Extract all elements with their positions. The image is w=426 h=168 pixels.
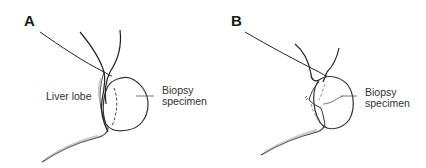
biopsy-label-a-line2: specimen [162,96,207,106]
panel-b: B Biopsy specimen [213,0,426,168]
biopsy-label-b-line1: Biopsy [365,87,397,97]
panel-a: A Liver lobe Biopsy specimen [0,0,213,168]
liver-lobe-label: Liver lobe [46,91,92,101]
biopsy-label-a-line1: Biopsy [162,85,194,95]
liver-lobe-illustration-b [213,0,426,168]
biopsy-label-b-line2: specimen [365,98,410,108]
